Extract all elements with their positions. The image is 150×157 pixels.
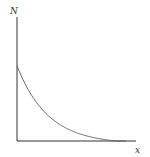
x-axis-label: x bbox=[135, 145, 140, 155]
y-axis-label: N bbox=[9, 6, 19, 16]
chart-canvas: N x bbox=[0, 0, 150, 157]
decay-curve bbox=[17, 66, 126, 141]
